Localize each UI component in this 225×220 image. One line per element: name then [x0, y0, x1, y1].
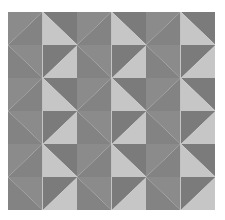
- quilt-cell: [77, 177, 112, 210]
- quilt-cell: [77, 12, 112, 45]
- quilt-cell: [112, 45, 147, 78]
- quilt-cell: [181, 111, 216, 144]
- quilt-cell: [112, 144, 147, 177]
- quilt-cell: [8, 111, 43, 144]
- quilt-cell: [112, 12, 147, 45]
- quilt-cell: [43, 111, 78, 144]
- quilt-cell: [146, 45, 181, 78]
- quilt-cell: [43, 12, 78, 45]
- quilt-cell: [181, 177, 216, 210]
- quilt-cell: [146, 78, 181, 111]
- quilt-cell: [112, 177, 147, 210]
- quilt-cell: [112, 111, 147, 144]
- quilt-cell: [112, 78, 147, 111]
- quilt-cell: [8, 12, 43, 45]
- quilt-cell: [8, 78, 43, 111]
- quilt-cell: [146, 144, 181, 177]
- quilt-cell: [77, 144, 112, 177]
- quilt-cell: [181, 78, 216, 111]
- quilt-cell: [181, 12, 216, 45]
- quilt-cell: [146, 111, 181, 144]
- quilt-cell: [146, 12, 181, 45]
- quilt-cell: [8, 144, 43, 177]
- quilt-cell: [43, 177, 78, 210]
- quilt-cell: [43, 144, 78, 177]
- quilt-cell: [181, 144, 216, 177]
- quilt-cell: [8, 45, 43, 78]
- quilt-cell: [43, 45, 78, 78]
- pinwheel-quilt-pattern: [8, 12, 215, 210]
- quilt-cell: [146, 177, 181, 210]
- quilt-cell: [43, 78, 78, 111]
- quilt-cell: [8, 177, 43, 210]
- quilt-cell: [77, 78, 112, 111]
- quilt-cell: [77, 111, 112, 144]
- quilt-cell: [77, 45, 112, 78]
- quilt-cell: [181, 45, 216, 78]
